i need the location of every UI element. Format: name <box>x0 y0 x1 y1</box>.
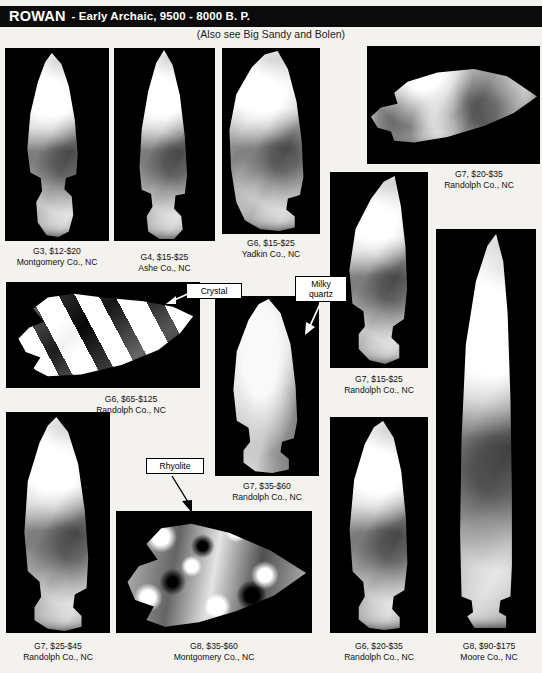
caption-provenance: Randolph Co., NC <box>420 180 538 191</box>
caption-provenance: Montgomery Co., NC <box>143 652 285 663</box>
specimen-photo-g8-moore-90-175 <box>436 229 536 633</box>
caption-provenance: Moore Co., NC <box>437 652 541 663</box>
point-silhouette <box>128 50 200 239</box>
caption-grade-price: G3, $12-$20 <box>7 246 107 257</box>
caption-provenance: Yadkin Co., NC <box>220 249 322 260</box>
callout-crystal-arrow-icon <box>164 288 192 310</box>
caption-g7-randolph-20-35: G7, $20-$35 Randolph Co., NC <box>420 169 538 191</box>
caption-grade-price: G7, $15-$25 <box>318 374 440 385</box>
caption-g3-montgomery: G3, $12-$20 Montgomery Co., NC <box>7 246 107 268</box>
point-silhouette <box>16 417 100 631</box>
point-silhouette <box>371 56 537 148</box>
specimen-photo-g6-randolph-20-35 <box>330 417 428 633</box>
caption-grade-price: G8, $90-$175 <box>437 641 541 652</box>
specimen-photo-g4-ashe <box>114 48 215 241</box>
caption-grade-price: G6, $65-$125 <box>64 394 198 405</box>
specimen-photo-g8-montgomery-35-60 <box>116 511 312 633</box>
caption-g7-randolph-15-25: G7, $15-$25 Randolph Co., NC <box>318 374 440 396</box>
point-silhouette <box>120 517 308 629</box>
caption-provenance: Ashe Co., NC <box>114 263 215 274</box>
point-silhouette <box>225 299 309 473</box>
specimen-photo-g7-randolph-20-35 <box>367 46 540 164</box>
callout-milky-quartz-label-line2: quartz <box>301 289 341 299</box>
caption-g6-randolph-65-125: G6, $65-$125 Randolph Co., NC <box>64 394 198 416</box>
caption-provenance: Randolph Co., NC <box>318 652 440 663</box>
callout-milky-quartz-arrow-icon <box>302 302 328 338</box>
caption-g6-randolph-20-35: G6, $20-$35 Randolph Co., NC <box>318 641 440 663</box>
specimen-photo-g7-randolph-25-45 <box>6 412 110 633</box>
callout-milky-quartz: Milky quartz <box>295 276 347 302</box>
specimen-photo-g3-montgomery <box>5 48 109 241</box>
caption-g8-moore-90-175: G8, $90-$175 Moore Co., NC <box>437 641 541 663</box>
point-period-range: - Early Archaic, 9500 - 8000 B. P. <box>72 11 251 23</box>
callout-rhyolite-arrow-icon <box>170 474 204 516</box>
caption-grade-price: G6, $15-$25 <box>220 238 322 249</box>
point-silhouette <box>226 51 312 231</box>
caption-grade-price: G6, $20-$35 <box>318 641 440 652</box>
reference-page: ROWAN - Early Archaic, 9500 - 8000 B. P.… <box>0 0 542 673</box>
point-silhouette <box>342 421 418 630</box>
callout-rhyolite-label: Rhyolite <box>159 461 190 471</box>
caption-g6-yadkin: G6, $15-$25 Yadkin Co., NC <box>220 238 322 260</box>
caption-g7-randolph-35-60: G7, $35-$60 Randolph Co., NC <box>206 481 328 503</box>
caption-grade-price: G7, $20-$35 <box>420 169 538 180</box>
point-silhouette <box>450 234 522 628</box>
specimen-photo-g7-randolph-15-25 <box>330 172 428 368</box>
point-type-name: ROWAN <box>9 9 66 24</box>
callout-milky-quartz-label-line1: Milky <box>301 279 341 289</box>
caption-grade-price: G4, $15-$25 <box>114 252 215 263</box>
caption-grade-price: G7, $25-$45 <box>0 641 116 652</box>
caption-grade-price: G8, $35-$60 <box>143 641 285 652</box>
caption-provenance: Randolph Co., NC <box>0 652 116 663</box>
caption-g8-montgomery-35-60: G8, $35-$60 Montgomery Co., NC <box>143 641 285 663</box>
point-silhouette <box>17 53 91 237</box>
caption-g7-randolph-25-45: G7, $25-$45 Randolph Co., NC <box>0 641 116 663</box>
caption-grade-price: G7, $35-$60 <box>206 481 328 492</box>
caption-provenance: Randolph Co., NC <box>64 405 198 416</box>
callout-crystal: Crystal <box>186 283 242 299</box>
caption-provenance: Randolph Co., NC <box>318 385 440 396</box>
callout-crystal-label: Crystal <box>201 286 228 296</box>
point-silhouette <box>340 176 418 364</box>
page-header-band: ROWAN - Early Archaic, 9500 - 8000 B. P. <box>0 6 542 27</box>
callout-rhyolite: Rhyolite <box>146 458 204 474</box>
caption-provenance: Montgomery Co., NC <box>7 257 107 268</box>
caption-g4-ashe: G4, $15-$25 Ashe Co., NC <box>114 252 215 274</box>
header-subtitle: (Also see Big Sandy and Bolen) <box>0 28 542 40</box>
specimen-photo-g6-yadkin <box>222 48 320 234</box>
caption-provenance: Randolph Co., NC <box>206 492 328 503</box>
